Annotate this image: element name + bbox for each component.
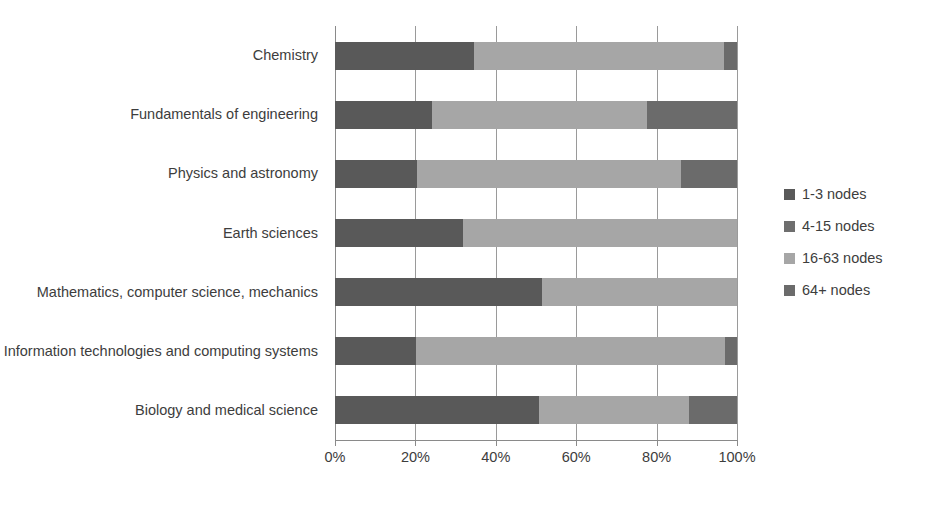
plot-area (335, 26, 737, 440)
legend-label: 16-63 nodes (802, 250, 883, 266)
category-label: Mathematics, computer science, mechanics (0, 284, 318, 301)
x-tick-label: 60% (546, 449, 606, 465)
bar-segment (335, 101, 432, 129)
stacked-bar (335, 396, 737, 424)
legend-label: 4-15 nodes (802, 218, 875, 234)
stacked-bar (335, 278, 737, 306)
stacked-bar (335, 337, 737, 365)
bar-segment (681, 160, 737, 188)
bar-segment (689, 396, 737, 424)
gridline-100 (737, 26, 738, 440)
category-label: Physics and astronomy (0, 165, 318, 182)
bar-segment (417, 160, 681, 188)
category-label: Chemistry (0, 47, 318, 64)
category-label: Earth sciences (0, 225, 318, 242)
x-tick-label: 0% (305, 449, 365, 465)
bar-row (335, 278, 737, 306)
category-label: Fundamentals of engineering (0, 106, 318, 123)
x-tick-80 (657, 440, 658, 446)
x-tick-label: 100% (707, 449, 767, 465)
stacked-bar-chart: ChemistryFundamentals of engineeringPhys… (0, 0, 946, 505)
bar-segment (335, 42, 474, 70)
bar-segment (724, 42, 737, 70)
x-tick-60 (576, 440, 577, 446)
legend-swatch-icon (784, 285, 795, 296)
bar-segment (416, 337, 725, 365)
bar-segment (542, 278, 737, 306)
bar-segment (335, 396, 539, 424)
category-label: Information technologies and computing s… (0, 343, 318, 360)
bar-row (335, 396, 737, 424)
stacked-bar (335, 219, 737, 247)
bar-segment (725, 337, 737, 365)
legend-item[interactable]: 16-63 nodes (784, 242, 934, 274)
x-tick-label: 20% (385, 449, 445, 465)
bar-segment (463, 219, 737, 247)
bar-row (335, 219, 737, 247)
bar-segment (539, 396, 689, 424)
legend-item[interactable]: 1-3 nodes (784, 178, 934, 210)
stacked-bar (335, 42, 737, 70)
bar-rows (335, 26, 737, 440)
x-tick-label: 40% (466, 449, 526, 465)
category-label: Biology and medical science (0, 402, 318, 419)
bar-segment (335, 219, 463, 247)
bar-segment (474, 42, 724, 70)
bar-segment (335, 160, 417, 188)
x-tick-20 (415, 440, 416, 446)
chart-legend: 1-3 nodes4-15 nodes16-63 nodes64+ nodes (784, 178, 934, 306)
bar-segment (432, 101, 647, 129)
bar-segment (647, 101, 737, 129)
legend-label: 1-3 nodes (802, 186, 867, 202)
legend-swatch-icon (784, 221, 795, 232)
legend-item[interactable]: 64+ nodes (784, 274, 934, 306)
legend-swatch-icon (784, 253, 795, 264)
x-tick-0 (335, 440, 336, 446)
bar-row (335, 42, 737, 70)
stacked-bar (335, 101, 737, 129)
legend-label: 64+ nodes (802, 282, 870, 298)
x-tick-100 (737, 440, 738, 446)
bar-segment (335, 337, 416, 365)
bar-row (335, 101, 737, 129)
x-tick-label: 80% (627, 449, 687, 465)
x-axis-line (335, 440, 738, 441)
category-axis-labels: ChemistryFundamentals of engineeringPhys… (0, 26, 326, 440)
bar-row (335, 160, 737, 188)
x-tick-40 (496, 440, 497, 446)
bar-row (335, 337, 737, 365)
legend-swatch-icon (784, 189, 795, 200)
stacked-bar (335, 160, 737, 188)
legend-item[interactable]: 4-15 nodes (784, 210, 934, 242)
bar-segment (335, 278, 542, 306)
